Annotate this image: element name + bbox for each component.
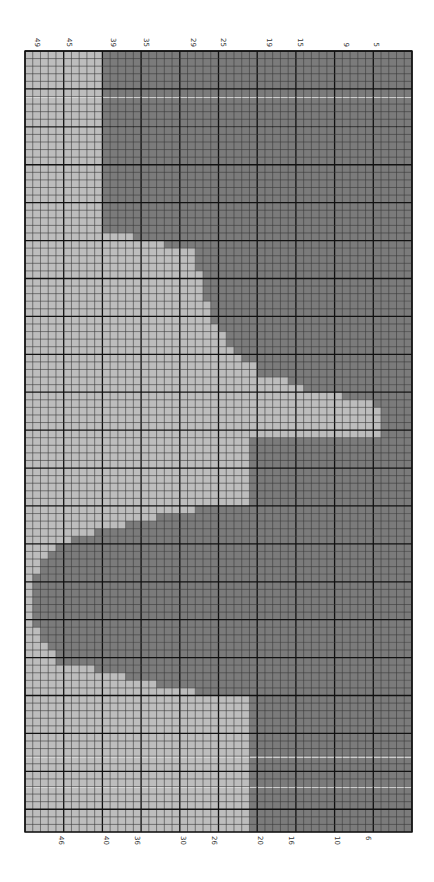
dark-region	[249, 438, 412, 506]
dark-region	[126, 673, 412, 681]
dark-region	[95, 665, 412, 673]
row-number-label: 19	[265, 38, 273, 47]
dark-region	[342, 392, 412, 400]
light-region	[25, 680, 157, 688]
row-number-label: 35	[142, 38, 150, 47]
light-region	[25, 521, 126, 529]
row-number-label: 16	[287, 836, 295, 845]
light-region	[25, 673, 126, 681]
row-number-label: 6	[364, 836, 372, 841]
light-region	[25, 392, 342, 400]
dark-region	[219, 324, 413, 332]
bottom-row-labels: 46403630262016106	[57, 836, 372, 845]
row-number-label: 9	[342, 43, 350, 47]
row-number-label: 29	[189, 38, 197, 47]
row-number-label: 20	[256, 836, 264, 845]
light-region	[25, 400, 373, 408]
row-number-label: 45	[65, 38, 73, 47]
row-number-label: 40	[102, 836, 110, 845]
light-region	[25, 665, 95, 673]
row-number-label: 46	[57, 836, 65, 845]
light-region	[25, 324, 219, 332]
dark-region	[95, 529, 412, 537]
row-number-label: 25	[219, 38, 227, 47]
light-region	[25, 347, 234, 355]
light-region	[25, 551, 48, 559]
row-number-label: 39	[109, 38, 117, 47]
light-region	[25, 642, 48, 650]
row-number-label: 30	[179, 836, 187, 845]
dark-region	[234, 347, 412, 355]
row-number-label: 36	[133, 836, 141, 845]
light-region	[25, 438, 249, 506]
row-number-label: 49	[33, 38, 41, 47]
row-number-label: 10	[333, 836, 341, 845]
light-region	[25, 514, 157, 522]
light-region	[25, 529, 95, 537]
row-number-label: 15	[296, 38, 304, 47]
dark-region	[126, 521, 412, 529]
dark-region	[373, 400, 412, 408]
stitch-chart: 494539352925191595 46403630262016106	[0, 0, 434, 882]
row-number-label: 5	[372, 43, 380, 47]
row-number-label: 26	[210, 836, 218, 845]
stitch-grid: 494539352925191595 46403630262016106	[0, 0, 434, 882]
top-row-labels: 494539352925191595	[33, 38, 380, 47]
